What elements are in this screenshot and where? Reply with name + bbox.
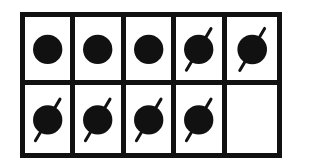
- dot-icon: [126, 17, 171, 80]
- frame-cell-empty: [227, 85, 277, 153]
- crossed-out-dot-icon: [176, 17, 221, 80]
- frame-cell: [176, 85, 226, 153]
- crossed-out-dot-icon: [75, 85, 120, 153]
- dot-icon: [75, 17, 120, 80]
- frame-cell: [227, 17, 277, 85]
- crossed-out-dot-icon: [176, 85, 221, 153]
- frame-cell: [126, 17, 176, 85]
- frame-cell: [25, 85, 75, 153]
- frame-cell: [126, 85, 176, 153]
- crossed-out-dot-icon: [25, 85, 70, 153]
- frame-cell: [75, 17, 125, 85]
- ten-frame: [20, 12, 282, 158]
- crossed-out-dot-icon: [126, 85, 171, 153]
- dot-icon: [25, 17, 70, 80]
- frame-cell: [75, 85, 125, 153]
- crossed-out-dot-icon: [227, 17, 277, 80]
- frame-cell: [176, 17, 226, 85]
- frame-cell: [25, 17, 75, 85]
